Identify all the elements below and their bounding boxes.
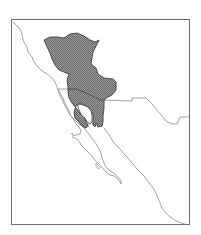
distribution-range — [44, 33, 116, 128]
map-canvas — [0, 0, 201, 235]
mainland-coastline — [104, 128, 185, 224]
range-map — [0, 0, 201, 235]
